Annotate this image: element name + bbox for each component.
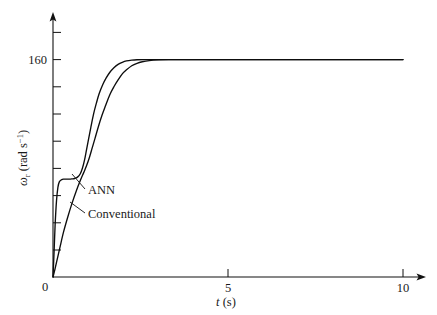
curve-ann: [53, 60, 403, 277]
y-axis-ticks: [53, 32, 61, 250]
x-tick-label-5: 5: [225, 281, 231, 295]
speed-response-chart: 160 0 5 10 t (s) ωr (rad s−1) ANN Conven…: [0, 0, 437, 315]
y-axis-title: ωr (rad s−1): [15, 130, 32, 186]
x-axis-title: t (s): [216, 295, 236, 309]
x-axis-title-rest: (s): [220, 295, 236, 309]
figure-container: 160 0 5 10 t (s) ωr (rad s−1) ANN Conven…: [0, 0, 437, 315]
y-axis-title-superscript: −1: [15, 134, 25, 143]
y-axis-title-close: ): [16, 130, 30, 134]
leader-line-conventional: [70, 202, 85, 213]
x-axis-ticks: [228, 269, 403, 277]
y-axis-title-symbol: ω: [16, 177, 30, 186]
x-tick-label-10: 10: [397, 281, 410, 295]
y-tick-label-160: 160: [28, 53, 47, 67]
y-tick-label-0: 0: [42, 280, 48, 294]
y-axis-title-rest: (rad s: [16, 143, 30, 174]
annotation-conventional: Conventional: [88, 207, 156, 221]
curve-conventional: [53, 60, 403, 277]
annotation-ann: ANN: [88, 183, 115, 197]
